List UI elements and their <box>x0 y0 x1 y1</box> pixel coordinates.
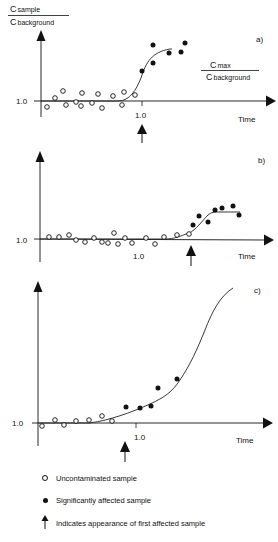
x-tick-label: 1.0 <box>135 111 147 120</box>
panel-label-b: b) <box>258 156 265 165</box>
fit-curve <box>41 49 172 101</box>
x-axis-label: Time <box>238 252 256 261</box>
x-tick-label: 1.0 <box>133 252 145 261</box>
svg-text:Cbackground: Cbackground <box>206 72 250 82</box>
svg-text:Csample: Csample <box>10 4 40 14</box>
figure-canvas: Csample Cbackground 1.0 1.0 Time a) Cmax… <box>0 0 278 542</box>
y-axis-arrow-icon <box>37 30 46 41</box>
x-axis-arrow-icon <box>266 96 276 107</box>
fit-curve <box>38 288 233 423</box>
y-tick-label: 1.0 <box>12 419 24 428</box>
open-circle-icon <box>40 474 50 483</box>
affected-points <box>140 41 188 74</box>
panel-label-a: a) <box>256 35 263 44</box>
legend-label: Uncontaminated sample <box>56 474 137 483</box>
panel-label-c: c) <box>254 286 261 295</box>
y-tick-label: 1.0 <box>16 97 28 106</box>
legend-item-uncontaminated: Uncontaminated sample <box>40 474 137 483</box>
x-axis-label: Time <box>238 115 256 124</box>
first-affected-arrow-icon <box>186 245 196 266</box>
panel-c: 1.0 1.0 Time c) <box>12 281 273 462</box>
legend-item-affected: Significantly affected sample <box>40 496 151 505</box>
panel-a: 1.0 1.0 Time a) Cmax Cbackground <box>16 30 276 143</box>
x-tick-label: 1.0 <box>134 433 146 442</box>
first-affected-arrow-icon <box>120 441 130 462</box>
uncontaminated-points <box>40 414 115 429</box>
x-axis-label: Time <box>236 436 254 445</box>
up-arrow-icon <box>40 515 50 531</box>
legend-item-first-affected: Indicates appearance of first affected s… <box>40 515 205 531</box>
y-tick-label: 1.0 <box>16 236 28 245</box>
affected-points <box>124 377 180 411</box>
uncontaminated-points <box>45 89 138 111</box>
x-axis-arrow-icon <box>263 418 273 429</box>
y-axis-label: Csample Cbackground <box>8 4 69 27</box>
x-axis-arrow-icon <box>264 235 274 246</box>
svg-text:Cbackground: Cbackground <box>10 17 54 27</box>
panel-b: 1.0 1.0 Time b) <box>16 151 274 266</box>
svg-text:Cmax: Cmax <box>210 60 231 70</box>
affected-points <box>191 204 242 228</box>
filled-circle-icon <box>40 496 50 505</box>
cmax-ratio-label: Cmax Cbackground <box>201 60 259 82</box>
legend-label: Indicates appearance of first affected s… <box>56 519 205 528</box>
first-affected-arrow-icon <box>137 124 147 143</box>
y-axis-arrow-icon <box>36 151 45 162</box>
legend-label: Significantly affected sample <box>56 496 151 505</box>
y-axis-arrow-icon <box>34 281 43 292</box>
